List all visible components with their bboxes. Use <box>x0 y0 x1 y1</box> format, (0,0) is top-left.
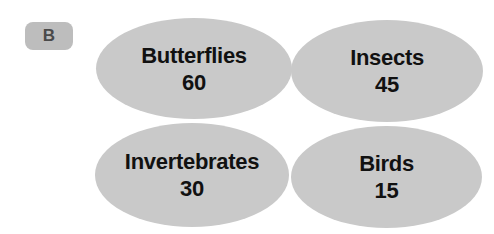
group-label: Birds <box>359 150 414 177</box>
group-value: 30 <box>180 175 204 202</box>
group-label: Butterflies <box>141 42 247 69</box>
group-ellipse-insects: Insects 45 <box>291 20 483 122</box>
group-ellipse-birds: Birds 15 <box>291 126 482 228</box>
group-label: Invertebrates <box>125 148 259 175</box>
group-value: 15 <box>375 177 399 204</box>
panel-label-badge: B <box>25 22 73 50</box>
group-value: 60 <box>182 69 206 96</box>
group-label: Insects <box>350 44 424 71</box>
group-ellipse-butterflies: Butterflies 60 <box>96 18 292 119</box>
group-ellipse-invertebrates: Invertebrates 30 <box>95 123 289 227</box>
group-value: 45 <box>375 71 399 98</box>
